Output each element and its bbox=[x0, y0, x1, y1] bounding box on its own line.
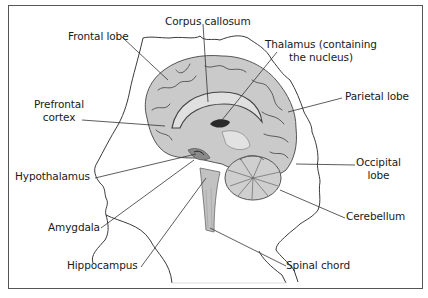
label-prefrontal-line2: cortex bbox=[34, 111, 84, 124]
cerebellum-shape bbox=[225, 156, 281, 201]
label-prefrontal-cortex: Prefrontal cortex bbox=[34, 98, 84, 124]
leader-cerebellum bbox=[280, 190, 345, 218]
brain-stem bbox=[200, 168, 220, 232]
label-amygdala: Amygdala bbox=[48, 221, 100, 234]
label-thalamus-line1: Thalamus (containing bbox=[265, 38, 377, 51]
leader-spinal-chord bbox=[210, 228, 286, 266]
leader-frontal-lobe bbox=[122, 37, 168, 80]
label-parietal-lobe: Parietal lobe bbox=[345, 90, 409, 103]
leader-amygdala bbox=[101, 160, 194, 228]
label-spinal-chord: Spinal chord bbox=[286, 259, 350, 272]
label-frontal-lobe: Frontal lobe bbox=[68, 30, 129, 43]
leader-occipital-lobe bbox=[296, 164, 355, 165]
leader-hypothalamus bbox=[95, 154, 196, 178]
label-hippocampus: Hippocampus bbox=[67, 259, 138, 272]
label-thalamus: Thalamus (containing the nucleus) bbox=[265, 38, 377, 64]
label-occipital-line2: lobe bbox=[356, 169, 401, 182]
label-occipital-line1: Occipital bbox=[356, 156, 401, 169]
label-corpus-callosum: Corpus callosum bbox=[165, 15, 251, 28]
leader-parietal-lobe bbox=[288, 98, 342, 112]
label-cerebellum: Cerebellum bbox=[346, 210, 405, 223]
label-prefrontal-line1: Prefrontal bbox=[34, 98, 84, 111]
label-thalamus-line2: the nucleus) bbox=[265, 51, 377, 64]
label-hypothalamus: Hypothalamus bbox=[15, 170, 90, 183]
neck-outline bbox=[106, 215, 172, 283]
back-neck-outline bbox=[259, 251, 286, 283]
label-occipital-lobe: Occipital lobe bbox=[356, 156, 401, 182]
cerebrum bbox=[145, 56, 296, 177]
